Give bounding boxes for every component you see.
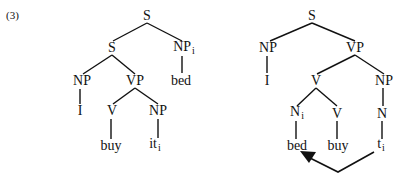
right-incorporated-noun: Ni [290, 105, 304, 123]
right-subject-np: NP [259, 41, 277, 55]
left-subject-word: I [78, 104, 83, 118]
right-vp: VP [346, 41, 364, 55]
left-topic-word: bed [171, 74, 191, 88]
right-object-n: N [377, 107, 387, 121]
right-verb: V [332, 107, 342, 121]
left-root-s: S [143, 9, 151, 23]
right-noun-word: bed [287, 139, 307, 153]
left-topic-np: NPi [173, 40, 195, 58]
movement-arrow [300, 151, 374, 172]
left-object-word: iti [149, 137, 161, 155]
right-verb-word: buy [328, 139, 349, 153]
right-subject-word: I [265, 74, 270, 88]
left-inner-s: S [108, 41, 116, 55]
left-object-np: NP [149, 104, 167, 118]
right-verb-complex: V [311, 74, 321, 88]
right-object-np: NP [375, 74, 393, 88]
left-subject-np: NP [73, 74, 91, 88]
right-root-s: S [308, 9, 316, 23]
left-verb-word: buy [101, 139, 122, 153]
right-trace: ti [377, 137, 385, 155]
left-vp: VP [126, 74, 144, 88]
left-verb: V [107, 104, 117, 118]
